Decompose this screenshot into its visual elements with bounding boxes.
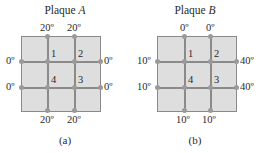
left-label-1: 10º — [137, 55, 151, 66]
node-3: 3 — [214, 74, 219, 85]
top-label-2: 20º — [67, 22, 81, 33]
boundary-dot — [19, 85, 24, 90]
grid-line — [157, 61, 237, 63]
panel-plate-a: Plaque A 20º 20º 1 2 3 4 0º 0º 0º 0º 20º… — [0, 0, 130, 153]
node-3: 3 — [78, 74, 83, 85]
caption-a: (a) — [0, 134, 130, 146]
title-letter: A — [79, 4, 86, 16]
node-4: 4 — [188, 74, 193, 85]
bottom-label-1: 20º — [40, 114, 54, 125]
boundary-dot — [182, 108, 187, 113]
grid-line — [184, 36, 186, 112]
node-dot — [208, 85, 213, 90]
node-dot — [72, 59, 77, 64]
left-label-2: 0º — [6, 81, 15, 92]
node-2: 2 — [78, 48, 83, 59]
plate-a-title: Plaque A — [0, 4, 130, 16]
node-dot — [182, 85, 187, 90]
left-label-2: 10º — [137, 81, 151, 92]
plate-b-grid — [157, 36, 237, 112]
title-prefix: Plaque — [44, 4, 78, 16]
boundary-dot — [155, 59, 160, 64]
bottom-label-2: 10º — [202, 114, 216, 125]
grid-line — [157, 87, 237, 89]
title-prefix: Plaque — [174, 4, 208, 16]
boundary-dot — [155, 85, 160, 90]
top-label-1: 20º — [40, 22, 54, 33]
boundary-dot — [45, 108, 50, 113]
right-label-2: 40º — [240, 81, 254, 92]
grid-line — [21, 87, 101, 89]
boundary-dot — [72, 108, 77, 113]
title-letter: B — [209, 4, 216, 16]
bottom-label-2: 20º — [67, 114, 81, 125]
boundary-dot — [208, 34, 213, 39]
right-label-2: 0º — [104, 81, 113, 92]
boundary-dot — [19, 59, 24, 64]
boundary-dot — [234, 59, 239, 64]
node-dot — [208, 59, 213, 64]
node-dot — [182, 59, 187, 64]
boundary-dot — [234, 85, 239, 90]
panel-plate-b: Plaque B 0º 0º 1 2 3 4 10º 10º 40º 40º 1… — [130, 0, 260, 153]
boundary-dot — [98, 59, 103, 64]
boundary-dot — [45, 34, 50, 39]
caption-b: (b) — [130, 134, 260, 146]
node-dot — [45, 85, 50, 90]
boundary-dot — [98, 85, 103, 90]
top-label-2: 0º — [206, 22, 215, 33]
left-label-1: 0º — [6, 55, 15, 66]
top-label-1: 0º — [180, 22, 189, 33]
node-1: 1 — [188, 48, 193, 59]
node-2: 2 — [214, 48, 219, 59]
node-dot — [72, 85, 77, 90]
node-dot — [45, 59, 50, 64]
plate-a-grid — [21, 36, 101, 112]
node-4: 4 — [51, 74, 56, 85]
grid-line — [74, 36, 76, 112]
right-label-1: 40º — [240, 55, 254, 66]
grid-line — [210, 36, 212, 112]
plate-b-title: Plaque B — [130, 4, 260, 16]
grid-line — [47, 36, 49, 112]
boundary-dot — [208, 108, 213, 113]
boundary-dot — [182, 34, 187, 39]
bottom-label-1: 10º — [176, 114, 190, 125]
boundary-dot — [72, 34, 77, 39]
node-1: 1 — [51, 48, 56, 59]
grid-line — [21, 61, 101, 63]
right-label-1: 0º — [104, 55, 113, 66]
